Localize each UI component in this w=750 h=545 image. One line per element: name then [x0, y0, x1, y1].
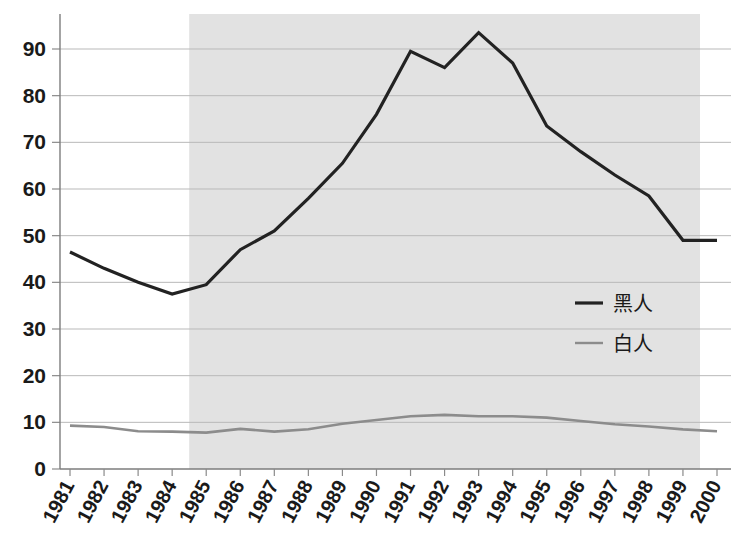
line-chart: 0102030405060708090198119821983198419851…: [0, 0, 750, 545]
x-axis-tick-label: 1996: [549, 477, 589, 527]
x-axis-tick-label: 1999: [651, 477, 691, 527]
x-axis-tick-label: 1995: [515, 477, 555, 527]
x-axis-tick-label: 1983: [106, 477, 146, 527]
x-axis-tick-label: 1990: [345, 477, 385, 527]
x-axis-tick-label: 1997: [583, 477, 623, 527]
legend-label-black-people: 黑人: [613, 292, 653, 316]
x-axis-tick-label: 2000: [685, 477, 725, 527]
x-axis-tick-label: 1988: [277, 477, 317, 527]
x-axis-tick-label: 1998: [617, 477, 657, 527]
y-axis-tick-label: 60: [23, 177, 46, 200]
legend-label-white-people: 白人: [613, 332, 653, 356]
shaded-region: [189, 14, 700, 469]
y-axis-tick-label: 30: [23, 317, 46, 340]
y-axis-tick-label: 20: [23, 364, 46, 387]
x-axis-tick-label: 1981: [38, 477, 78, 527]
x-axis-tick-label: 1985: [174, 477, 214, 527]
x-axis-tick-label: 1989: [311, 477, 351, 527]
x-axis-tick-label: 1993: [447, 477, 487, 527]
y-axis-tick-label: 80: [23, 84, 46, 107]
y-axis-tick-label: 70: [23, 130, 46, 153]
x-axis-tick-label: 1986: [208, 477, 248, 527]
y-axis-tick-label: 50: [23, 224, 46, 247]
y-axis-tick-label: 0: [34, 457, 46, 480]
y-axis-tick-label: 90: [23, 37, 46, 60]
x-axis-tick-label: 1982: [72, 477, 112, 527]
x-axis-tick-label: 1992: [413, 477, 453, 527]
x-axis-tick-label: 1991: [379, 477, 419, 527]
x-axis-tick-label: 1987: [243, 477, 283, 527]
y-axis-tick-label: 40: [23, 270, 46, 293]
x-axis-tick-label: 1994: [481, 476, 522, 526]
y-axis-tick-label: 10: [23, 410, 46, 433]
x-axis-tick-label: 1984: [140, 476, 181, 526]
chart-container: 0102030405060708090198119821983198419851…: [0, 0, 750, 545]
